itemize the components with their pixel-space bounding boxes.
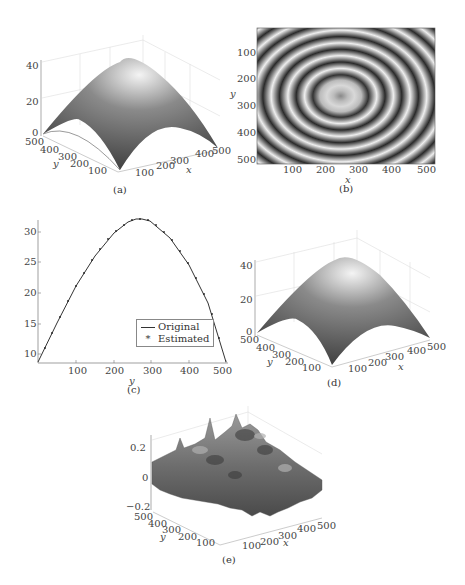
b-x-tick-500: 500 — [417, 164, 436, 175]
e-z-tick-0: 0 — [142, 472, 148, 483]
e-x-tick-200: 200 — [260, 536, 279, 547]
b-y-tick-100: 100 — [237, 47, 256, 58]
b-y-axis-label: y — [230, 88, 236, 99]
b-y-tick-300: 300 — [237, 100, 256, 111]
d-x-tick-100: 100 — [348, 363, 367, 374]
c-y-tick-30: 30 — [24, 226, 37, 237]
y-tick-400: 400 — [40, 144, 59, 155]
x-tick-100: 100 — [135, 167, 154, 178]
d-z-tick-20: 20 — [240, 294, 253, 305]
surface-d-graphic — [230, 190, 465, 390]
legend: Original *Estimated — [136, 319, 214, 347]
d-z-tick-40: 40 — [240, 260, 253, 271]
surface-a-graphic — [0, 0, 230, 190]
e-x-axis-label: x — [283, 537, 289, 548]
c-y-tick-10: 10 — [24, 348, 37, 359]
y-tick-200: 200 — [70, 158, 89, 169]
b-x-tick-400: 400 — [382, 164, 401, 175]
c-y-tick-15: 15 — [24, 318, 37, 329]
c-x-tick-200: 200 — [105, 365, 124, 376]
b-x-tick-100: 100 — [283, 164, 302, 175]
z-tick-40: 40 — [26, 60, 39, 71]
d-x-tick-400: 400 — [407, 345, 426, 356]
panel-e-error-surface: 0.2 0 −0.2 500 400 300 200 100 y 100 200… — [120, 380, 360, 585]
c-y-tick-25: 25 — [24, 256, 37, 267]
b-x-tick-300: 300 — [349, 164, 368, 175]
caption-e: (e) — [222, 554, 236, 565]
e-z-tick-0-2: 0.2 — [130, 442, 146, 453]
b-y-tick-500: 500 — [237, 154, 256, 165]
b-y-tick-400: 400 — [237, 127, 256, 138]
legend-item-original: Original — [141, 321, 209, 333]
e-y-axis-label: y — [160, 531, 166, 542]
fringe-pattern-graphic — [225, 0, 465, 190]
panel-a-surface: 40 20 0 500 400 300 200 100 y 100 200 30… — [0, 0, 230, 190]
z-tick-20: 20 — [26, 96, 39, 107]
e-x-tick-100: 100 — [242, 540, 261, 551]
panel-d-surface: 40 20 0 500 400 300 200 100 y 100 200 30… — [230, 190, 465, 390]
b-y-tick-200: 200 — [237, 73, 256, 84]
d-x-tick-500: 500 — [427, 341, 446, 352]
error-surface-graphic — [120, 380, 360, 585]
e-x-tick-400: 400 — [297, 523, 316, 534]
c-x-tick-100: 100 — [68, 365, 87, 376]
e-x-tick-500: 500 — [317, 520, 336, 531]
e-y-tick-100: 100 — [196, 537, 215, 548]
c-x-tick-300: 300 — [143, 365, 162, 376]
e-y-tick-200: 200 — [178, 531, 197, 542]
b-x-tick-200: 200 — [316, 164, 335, 175]
d-x-axis-label: x — [398, 361, 404, 372]
y-tick-100: 100 — [88, 165, 107, 176]
d-y-axis-label: y — [267, 356, 273, 367]
y-axis-label: y — [53, 158, 59, 169]
c-x-tick-400: 400 — [180, 365, 199, 376]
d-y-tick-100: 100 — [302, 362, 321, 373]
c-y-tick-20: 20 — [24, 287, 37, 298]
x-axis-label: x — [186, 164, 192, 175]
legend-item-estimated: *Estimated — [141, 333, 209, 345]
panel-b-fringe: 100 200 y 300 400 500 100 200 300 400 50… — [225, 0, 465, 190]
panel-c-line-chart: 30 25 20 15 10 100 200 300 400 500 y Ori… — [0, 190, 240, 390]
